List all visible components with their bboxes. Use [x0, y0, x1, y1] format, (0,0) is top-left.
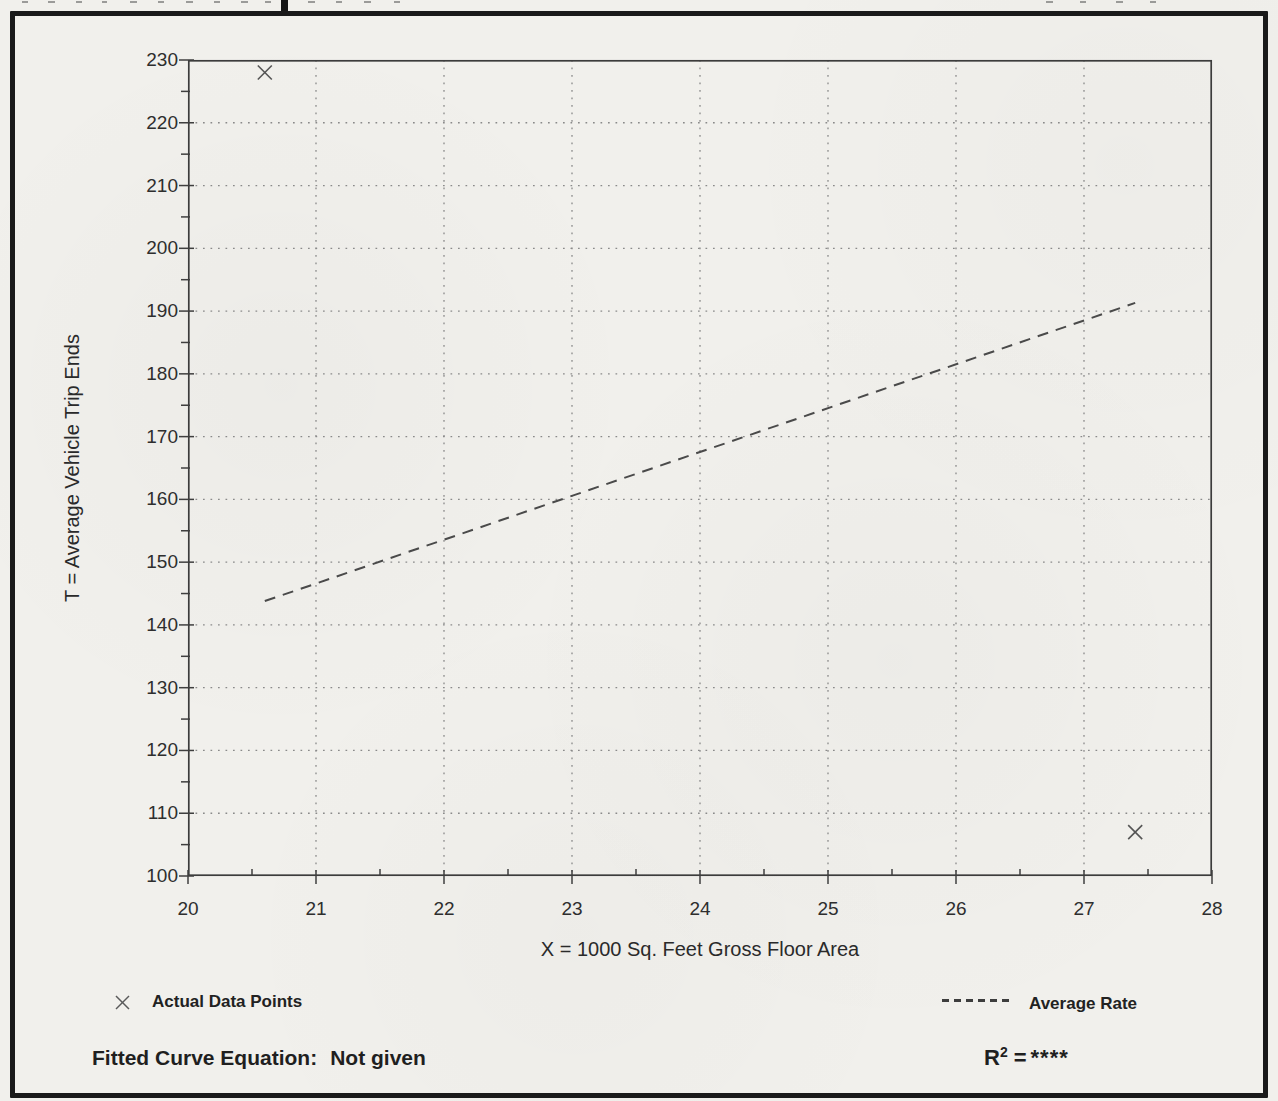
x-tick-label: 27	[1058, 898, 1110, 920]
fitted-curve-equation: Fitted Curve Equation:Not given	[92, 1046, 426, 1070]
x-tick-label: 20	[162, 898, 214, 920]
y-tick-label: 220	[126, 112, 178, 134]
x-axis-title: X = 1000 Sq. Feet Gross Floor Area	[188, 938, 1212, 961]
scanned-page: 1001101201301401501601701801902002102202…	[0, 0, 1278, 1101]
scan-artifact-fragment	[281, 0, 288, 11]
scan-artifact-fragment	[364, 1, 371, 3]
scan-artifact-fragment	[1150, 1, 1156, 3]
axis-tick-marks	[179, 60, 1212, 884]
x-tick-label: 28	[1186, 898, 1238, 920]
r-squared-exponent: 2	[1000, 1044, 1008, 1060]
y-tick-label: 190	[126, 300, 178, 322]
y-tick-label: 100	[126, 865, 178, 887]
r-squared-base: R	[984, 1045, 1000, 1070]
plot-area	[188, 60, 1212, 876]
x-tick-label: 22	[418, 898, 470, 920]
dotted-gridlines	[188, 60, 1212, 876]
scan-artifact-fragment	[265, 1, 271, 3]
y-tick-label: 230	[126, 49, 178, 71]
y-axis-title-text: T = Average Vehicle Trip Ends	[61, 334, 84, 602]
r-squared-value: ****	[1031, 1045, 1069, 1070]
scan-artifact-fragment	[336, 1, 342, 3]
scan-artifact-fragment	[1116, 1, 1123, 3]
dashed-line-icon	[942, 999, 1014, 1002]
scan-artifact-fragment	[102, 1, 107, 3]
r-squared-statistic: R2=****	[984, 1044, 1069, 1071]
legend-label-actual-data-points: Actual Data Points	[152, 992, 302, 1012]
y-tick-label: 140	[126, 614, 178, 636]
scan-artifact-fragment	[394, 1, 400, 3]
scan-artifact-fragment	[130, 1, 137, 3]
scan-artifact-fragment	[22, 1, 28, 3]
fitted-curve-label: Fitted Curve Equation:	[92, 1046, 317, 1069]
y-tick-label: 130	[126, 677, 178, 699]
legend-label-average-rate: Average Rate	[1029, 994, 1137, 1014]
scan-artifact-fragment	[1046, 1, 1053, 3]
scan-artifact-fragment	[76, 1, 82, 3]
scan-artifact-fragment	[214, 1, 220, 3]
y-tick-label: 120	[126, 739, 178, 761]
r-squared-equals: =	[1014, 1045, 1027, 1070]
scan-artifact-fragment	[48, 1, 55, 3]
x-tick-label: 23	[546, 898, 598, 920]
x-tick-label: 25	[802, 898, 854, 920]
scan-artifact-fragment	[158, 1, 164, 3]
fitted-curve-value: Not given	[330, 1046, 426, 1069]
plot-box-border	[189, 61, 1211, 875]
y-tick-label: 210	[126, 175, 178, 197]
scan-artifact-fragment	[186, 1, 193, 3]
scan-artifact-fragment	[1080, 1, 1086, 3]
x-tick-label: 21	[290, 898, 342, 920]
scan-artifact-fragment	[241, 1, 248, 3]
x-marker-icon	[114, 994, 131, 1011]
y-tick-label: 110	[126, 802, 178, 824]
x-tick-label: 24	[674, 898, 726, 920]
y-tick-label: 200	[126, 237, 178, 259]
scan-artifact-fragment	[308, 1, 315, 3]
y-tick-label: 170	[126, 426, 178, 448]
y-tick-label: 160	[126, 488, 178, 510]
y-tick-label: 150	[126, 551, 178, 573]
y-tick-label: 180	[126, 363, 178, 385]
x-tick-label: 26	[930, 898, 982, 920]
